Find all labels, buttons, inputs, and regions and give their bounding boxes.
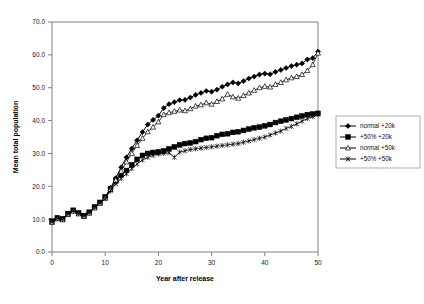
data-point-marker	[262, 71, 267, 76]
data-point-marker	[188, 95, 193, 100]
data-point-marker	[268, 132, 272, 137]
data-point-marker	[257, 72, 262, 77]
x-axis-tick-label: 10	[102, 259, 110, 266]
legend-item-label: +50% +50k	[360, 155, 393, 162]
data-point-marker	[273, 120, 278, 125]
legend-item-label: +50% +20k	[360, 133, 393, 140]
data-point-marker	[284, 118, 289, 123]
data-point-marker	[172, 100, 177, 105]
data-point-marker	[295, 121, 299, 126]
data-point-marker	[230, 80, 235, 85]
axes-layer	[48, 22, 318, 256]
chart-container: 0.010.020.030.040.050.060.070.0010203040…	[0, 0, 424, 304]
data-point-marker	[252, 74, 257, 79]
series-line	[52, 115, 318, 222]
data-point-marker	[230, 130, 235, 135]
data-point-marker	[257, 125, 262, 130]
data-point-marker	[225, 131, 230, 136]
data-point-marker	[130, 166, 134, 171]
data-point-marker	[140, 157, 144, 162]
data-point-marker	[172, 155, 176, 160]
data-point-marker	[182, 97, 187, 102]
legend-item-label: normal +20k	[360, 122, 396, 129]
data-point-marker	[300, 114, 305, 119]
series-line	[52, 53, 318, 222]
data-point-marker	[252, 88, 257, 93]
data-point-marker	[268, 72, 273, 77]
series-line	[52, 113, 318, 221]
y-axis-tick-label: 70.0	[32, 18, 45, 25]
data-point-marker	[225, 92, 230, 97]
legend-item[interactable]: +50% +20k	[340, 133, 393, 140]
data-point-marker	[140, 153, 145, 158]
data-point-marker	[135, 161, 139, 166]
data-point-marker	[230, 94, 235, 99]
data-point-marker	[193, 139, 198, 144]
x-axis-title: Year after release	[156, 275, 214, 282]
data-point-marker	[183, 141, 188, 146]
legend-item-label: normal +50k	[360, 144, 396, 151]
x-axis-tick-label: 0	[50, 259, 54, 266]
data-point-marker	[215, 133, 220, 138]
data-point-marker	[294, 115, 299, 120]
data-point-marker	[300, 119, 304, 124]
data-point-marker	[246, 127, 251, 132]
legend-item[interactable]: normal +50k	[340, 144, 396, 151]
data-point-marker	[279, 128, 283, 133]
data-point-marker	[214, 87, 219, 92]
data-point-marker	[241, 93, 246, 98]
data-point-marker	[246, 76, 251, 81]
data-point-marker	[262, 123, 267, 128]
data-point-marker	[193, 92, 198, 97]
data-point-marker	[252, 125, 257, 130]
plot-frame	[52, 22, 318, 252]
data-point-marker	[289, 116, 294, 121]
chart-series	[50, 51, 321, 225]
data-point-marker	[214, 99, 219, 104]
data-point-marker	[278, 67, 283, 72]
data-point-marker	[236, 129, 241, 134]
data-point-marker	[119, 176, 123, 181]
data-point-marker	[305, 116, 309, 121]
data-point-marker	[273, 69, 278, 74]
line-chart: 0.010.020.030.040.050.060.070.0010203040…	[0, 0, 424, 304]
data-point-marker	[262, 84, 267, 89]
data-point-marker	[268, 122, 273, 127]
series-line	[52, 52, 318, 222]
chart-legend: normal +20k+50% +20knormal +50k+50% +50k	[336, 116, 420, 168]
x-axis-tick-label: 30	[208, 259, 216, 266]
chart-series	[49, 49, 320, 224]
data-point-marker	[283, 65, 288, 70]
y-axis-tick-label: 40.0	[32, 117, 45, 124]
y-axis-tick-label: 20.0	[32, 183, 45, 190]
data-point-marker	[204, 100, 209, 105]
y-axis-tick-label: 50.0	[32, 84, 45, 91]
data-point-marker	[346, 135, 351, 140]
chart-series	[50, 112, 320, 225]
y-axis-tick-label: 0.0	[36, 248, 45, 255]
data-point-marker	[278, 80, 283, 85]
data-point-marker	[220, 132, 225, 137]
data-point-marker	[177, 98, 182, 103]
data-point-marker	[294, 62, 299, 67]
data-point-marker	[172, 144, 177, 149]
data-point-marker	[246, 90, 251, 95]
data-point-marker	[241, 79, 246, 84]
data-point-marker	[188, 106, 193, 111]
data-point-marker	[284, 126, 288, 131]
series-layer	[49, 49, 320, 225]
data-point-marker	[236, 81, 241, 86]
data-point-marker	[135, 157, 140, 162]
data-point-marker	[241, 128, 246, 133]
chart-series	[50, 111, 321, 224]
data-point-marker	[209, 135, 214, 140]
data-point-marker	[198, 90, 203, 95]
data-point-marker	[273, 130, 277, 135]
data-point-marker	[209, 89, 214, 94]
data-point-marker	[278, 119, 283, 124]
x-axis-tick-label: 40	[261, 259, 269, 266]
data-point-marker	[310, 62, 315, 67]
y-axis-tick-label: 30.0	[32, 150, 45, 157]
data-point-marker	[177, 107, 182, 112]
data-point-marker	[204, 136, 209, 141]
